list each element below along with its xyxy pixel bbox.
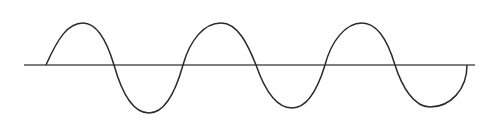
waveform-diagram bbox=[0, 0, 500, 125]
waveform-svg bbox=[0, 0, 500, 125]
sine-wave bbox=[46, 23, 467, 113]
